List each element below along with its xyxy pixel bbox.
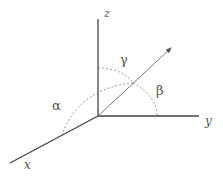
direction-angles-diagram: z y x γ β α [0,0,223,182]
beta-arc [133,83,157,116]
alpha-angle-label: α [52,99,61,112]
diagram-canvas [0,0,223,182]
x-axis [10,116,98,163]
gamma-angle-label: γ [120,53,128,66]
x-axis-label: x [24,159,31,171]
beta-angle-label: β [156,84,164,97]
z-axis-label: z [104,8,110,19]
y-axis-label: y [205,115,212,127]
vector-arrow [98,48,171,116]
gamma-arc [98,68,133,83]
